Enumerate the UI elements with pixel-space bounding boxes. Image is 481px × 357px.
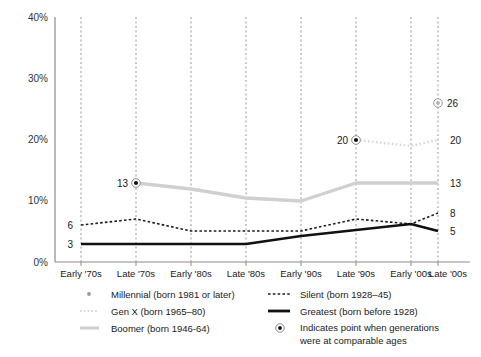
annotation-millennial-26: 26 xyxy=(447,98,459,109)
legend-item-millennial: Millennial (born 1981 or later) xyxy=(87,289,234,300)
x-label-early-90s: Early '90s xyxy=(280,268,322,279)
x-label-late-70s: Late '70s xyxy=(117,268,156,279)
series-line-greatest xyxy=(81,224,438,244)
y-tick-label-30: 30% xyxy=(28,73,48,84)
end-label-genx: 20 xyxy=(450,135,462,146)
legend-label-greatest: Greatest (born before 1928) xyxy=(300,306,418,317)
end-label-silent: 8 xyxy=(450,208,456,219)
start-label-greatest: 3 xyxy=(67,239,73,250)
end-label-greatest: 5 xyxy=(450,226,456,237)
legend-label-silent: Silent (born 1928–45) xyxy=(300,289,391,300)
x-label-late-80s: Late '80s xyxy=(227,268,266,279)
x-label-early-80s: Early '80s xyxy=(170,268,212,279)
legend-label-genx: Gen X (born 1965–80) xyxy=(111,306,206,317)
chart-legend: Millennial (born 1981 or later) Gen X (b… xyxy=(80,289,439,346)
start-label-silent: 6 xyxy=(67,220,73,231)
legend-label-comparable-ages-line1: Indicates point when generations xyxy=(300,322,439,333)
circled-dot-inner-icon xyxy=(278,326,282,330)
end-label-boomer: 13 xyxy=(450,178,462,189)
y-tick-label-40: 40% xyxy=(28,12,48,23)
series-line-genx xyxy=(356,140,438,146)
legend-item-boomer: Boomer (born 1946-64) xyxy=(80,323,210,334)
legend-item-genx: Gen X (born 1965–80) xyxy=(80,306,206,317)
x-label-early-70s: Early '70s xyxy=(60,268,102,279)
legend-item-greatest: Greatest (born before 1928) xyxy=(268,306,418,317)
annotation-boomer-13: 13 xyxy=(117,178,129,189)
comparable-age-marker-millennial xyxy=(434,99,443,108)
y-tick-label-0: 0% xyxy=(34,257,49,268)
legend-label-millennial: Millennial (born 1981 or later) xyxy=(111,289,235,300)
legend-item-comparable-ages: Indicates point when generations were at… xyxy=(276,322,439,346)
generations-line-chart: 40% 30% 20% 10% 0% 13 20 xyxy=(0,0,481,357)
comparable-age-marker-boomer xyxy=(132,179,141,188)
series-line-silent xyxy=(81,213,438,231)
annotation-genx-20: 20 xyxy=(337,135,349,146)
x-label-late-00s: Late '00s xyxy=(429,268,468,279)
x-label-early-00s: Early '00s xyxy=(390,268,432,279)
series-line-boomer xyxy=(136,183,438,201)
y-tick-label-10: 10% xyxy=(28,195,48,206)
comparable-age-marker-genx xyxy=(352,136,361,145)
millennial-dot-icon xyxy=(87,292,91,296)
legend-label-boomer: Boomer (born 1946-64) xyxy=(111,323,210,334)
x-label-late-90s: Late '90s xyxy=(337,268,376,279)
y-tick-label-20: 20% xyxy=(28,134,48,145)
legend-item-silent: Silent (born 1928–45) xyxy=(268,289,391,300)
legend-label-comparable-ages-line2: were at comparable ages xyxy=(299,335,407,346)
